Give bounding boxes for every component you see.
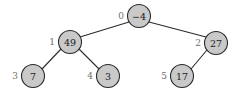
node-index-label: 2	[195, 38, 201, 48]
tree-diagram-svg: 0−41492273743517	[0, 0, 238, 95]
node-index-label: 1	[49, 37, 55, 47]
tree-node[interactable]: 517	[161, 65, 193, 88]
node-index-label: 3	[12, 71, 18, 81]
tree-edge	[79, 49, 99, 69]
tree-edge	[191, 50, 207, 69]
nodes-layer: 0−41492273743517	[12, 5, 227, 88]
tree-diagram-canvas: 0−41492273743517	[0, 0, 238, 95]
tree-node[interactable]: 37	[12, 65, 44, 88]
node-index-label: 5	[161, 71, 167, 81]
node-value-label: −4	[132, 11, 146, 22]
node-value-label: 3	[105, 71, 111, 82]
node-value-label: 17	[176, 71, 188, 82]
tree-edge	[149, 22, 206, 37]
tree-node[interactable]: 43	[87, 65, 119, 88]
node-value-label: 7	[30, 71, 36, 82]
node-index-label: 4	[87, 71, 93, 81]
tree-node[interactable]: 149	[49, 31, 81, 54]
tree-edge	[42, 49, 61, 69]
node-value-label: 27	[210, 38, 222, 49]
node-index-label: 0	[118, 11, 124, 21]
node-value-label: 49	[64, 37, 76, 48]
tree-edge	[80, 22, 129, 37]
